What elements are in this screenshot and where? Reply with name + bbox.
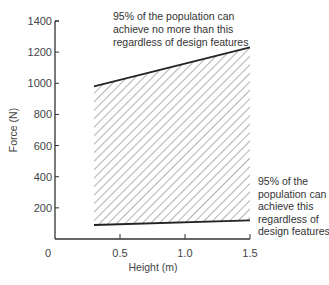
upper-annotation-line: 95% of the population can [113, 10, 235, 22]
upper-annotation-line: achieve no more than this [113, 23, 233, 35]
y-tick-label: 1200 [28, 46, 52, 58]
x-axis-label: Height (m) [128, 261, 177, 273]
upper-annotation-line: regardless of design features [113, 36, 248, 48]
y-tick-label: 400 [34, 171, 52, 183]
lower-annotation-line: regardless of [258, 213, 319, 225]
lower-annotation-line: 95% of the [258, 175, 308, 187]
plot-area [94, 47, 250, 225]
chart-canvas: 20040060080010001200140000.51.01.5Height… [0, 0, 329, 285]
y-tick-label: 1000 [28, 77, 52, 89]
y-tick-label: 1400 [28, 15, 52, 27]
x-tick-label: 1.5 [242, 247, 257, 259]
x-tick-label: 1.0 [177, 247, 192, 259]
lower-annotation-line: achieve this [258, 200, 313, 212]
y-tick-label: 200 [34, 202, 52, 214]
y-axis-label: Force (N) [7, 108, 19, 152]
x-tick-label: 0.5 [112, 247, 127, 259]
x-tick-label: 0 [45, 247, 51, 259]
lower-annotation-line: design features [258, 225, 329, 237]
hatched-region [94, 47, 250, 225]
y-tick-label: 600 [34, 140, 52, 152]
lower-annotation-line: population can [258, 188, 326, 200]
y-tick-label: 800 [34, 108, 52, 120]
